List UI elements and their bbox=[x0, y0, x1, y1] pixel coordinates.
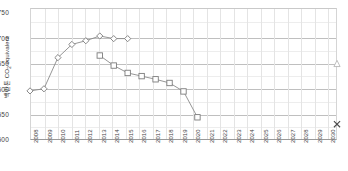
x-tick-2019: 2019 bbox=[182, 129, 188, 143]
x-tick-2027: 2027 bbox=[290, 129, 296, 143]
data-point-diamond-series-2008 bbox=[27, 88, 33, 94]
x-tick-2026: 2026 bbox=[276, 129, 282, 143]
x-tick-2009: 2009 bbox=[47, 129, 53, 143]
series-layer bbox=[0, 0, 348, 171]
x-tick-2029: 2029 bbox=[317, 129, 323, 143]
x-tick-2030: 2030 bbox=[330, 129, 336, 143]
x-tick-2015: 2015 bbox=[128, 129, 134, 143]
x-tick-2011: 2011 bbox=[74, 130, 80, 143]
x-tick-2008: 2008 bbox=[33, 129, 39, 143]
data-point-diamond-series-2014 bbox=[111, 36, 117, 42]
x-tick-2024: 2024 bbox=[249, 129, 255, 143]
data-point-square-series-2014 bbox=[111, 63, 116, 68]
data-point-square-series-2018 bbox=[167, 80, 172, 85]
data-point-square-series-2017 bbox=[153, 77, 158, 82]
data-point-triangle-target-point-2030 bbox=[334, 60, 340, 66]
x-tick-2021: 2021 bbox=[209, 129, 215, 143]
x-tick-2028: 2028 bbox=[303, 129, 309, 143]
x-tick-2018: 2018 bbox=[168, 129, 174, 143]
x-tick-2014: 2014 bbox=[114, 129, 120, 143]
x-tick-2010: 2010 bbox=[60, 129, 66, 143]
line-chart: 백만톤 CO2 equivalent 750 700 650 600 550 5… bbox=[0, 0, 348, 171]
data-point-diamond-series-2013 bbox=[97, 33, 103, 39]
data-point-diamond-series-2015 bbox=[125, 36, 131, 42]
x-tick-2025: 2025 bbox=[263, 129, 269, 143]
data-point-square-series-2013 bbox=[97, 53, 102, 58]
data-point-square-series-2016 bbox=[139, 73, 144, 78]
data-point-diamond-series-2009 bbox=[41, 86, 47, 92]
data-point-square-series-2019 bbox=[181, 89, 186, 94]
x-tick-2023: 2023 bbox=[236, 129, 242, 143]
x-tick-2022: 2022 bbox=[222, 129, 228, 143]
data-point-square-series-2020 bbox=[195, 115, 200, 120]
x-tick-2017: 2017 bbox=[155, 129, 161, 143]
data-point-x-target-point-2030 bbox=[334, 121, 340, 127]
data-point-diamond-series-2012 bbox=[83, 38, 89, 44]
x-tick-2013: 2013 bbox=[101, 129, 107, 143]
x-tick-2016: 2016 bbox=[141, 129, 147, 143]
data-point-square-series-2015 bbox=[125, 70, 130, 75]
x-tick-2020: 2020 bbox=[195, 129, 201, 143]
x-tick-2012: 2012 bbox=[87, 129, 93, 143]
